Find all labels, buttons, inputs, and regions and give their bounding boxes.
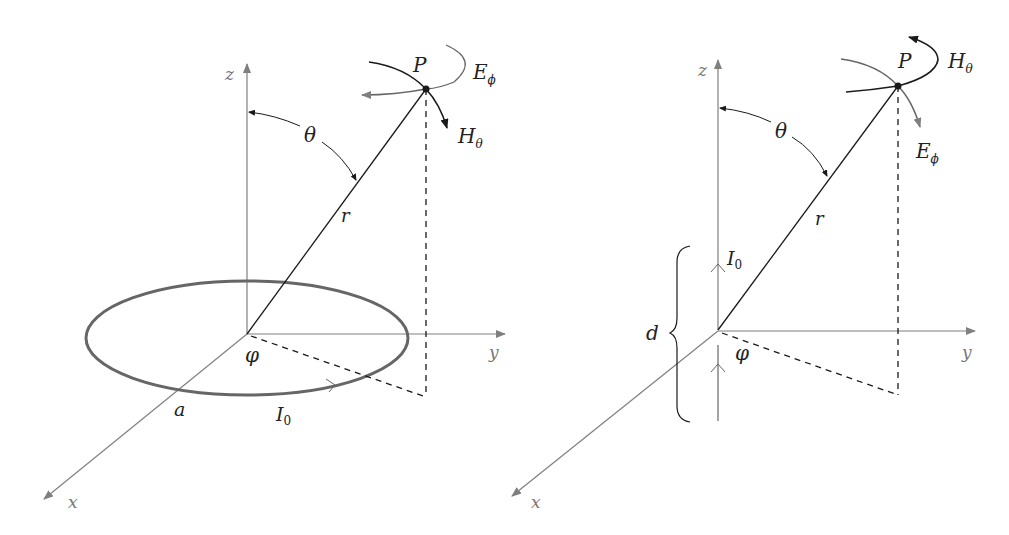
point-p [895, 83, 902, 90]
y-axis-label: y [961, 342, 972, 362]
y-axis-label: y [488, 342, 499, 362]
x-axis [44, 334, 247, 499]
radius-label: r [815, 208, 825, 229]
h-theta-label: Hθ [947, 49, 973, 76]
loop-radius-label: a [174, 398, 185, 420]
theta-arc [792, 137, 827, 176]
x-axis-label: x [531, 492, 541, 512]
current-label: I0 [726, 247, 742, 272]
h-theta-label: Hθ [457, 124, 483, 151]
h-theta-arrow [426, 89, 447, 128]
current-label: I0 [275, 403, 291, 428]
e-phi-arrow [898, 86, 920, 127]
phi-label: φ [245, 343, 259, 367]
point-p [423, 86, 430, 93]
projection-ground [251, 336, 426, 397]
e-phi-curve [426, 45, 465, 89]
radius-line [718, 86, 898, 330]
z-axis-label: z [697, 60, 708, 80]
dipole-length-brace [670, 246, 690, 422]
right-panel-dipole-antenna: z y x P θ φ r d I0 Hθ Eϕ [512, 37, 975, 512]
e-phi-label: Eϕ [915, 139, 939, 166]
radius-line [247, 89, 426, 334]
theta-arc [720, 108, 771, 122]
radius-label: r [341, 205, 351, 226]
antenna-diagram: z y x P θ φ r a I0 Eϕ Hθ [0, 0, 1009, 535]
phi-label: φ [735, 341, 749, 365]
e-phi-arrow [362, 89, 426, 95]
e-field-meridian-curve [841, 59, 898, 86]
point-p-label: P [897, 49, 912, 73]
dipole-length-label: d [646, 321, 659, 345]
e-phi-label: Eϕ [472, 60, 496, 87]
theta-arc [322, 142, 356, 180]
theta-label: θ [775, 119, 787, 143]
z-axis-label: z [224, 64, 235, 84]
x-axis-label: x [68, 492, 78, 512]
theta-label: θ [304, 123, 316, 147]
point-p-label: P [412, 53, 427, 77]
h-theta-curve [846, 37, 938, 92]
theta-arc [249, 112, 300, 126]
x-axis [512, 331, 718, 496]
left-panel-loop-antenna: z y x P θ φ r a I0 Eϕ Hθ [44, 45, 505, 512]
